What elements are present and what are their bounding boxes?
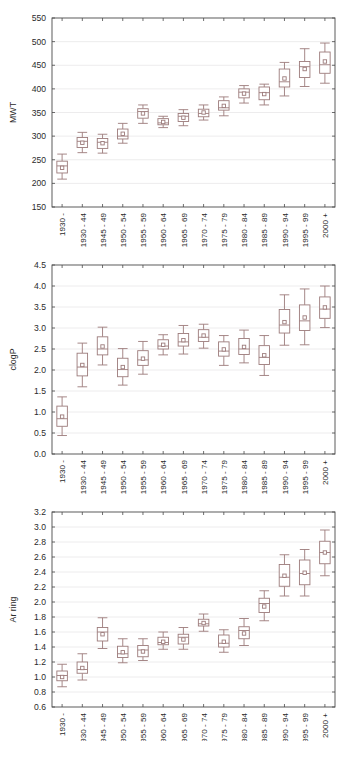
x-tick-label: 1955 - 59 [139,713,148,741]
box-plot-item [178,110,189,126]
y-tick-label: 3.2 [34,507,46,517]
y-tick-label: 2.0 [34,365,46,375]
box-plot-item [77,654,88,680]
mean-marker [202,621,205,624]
mean-marker [263,92,266,95]
box-plot-item [77,132,88,152]
y-tick-label: 1.4 [34,642,46,652]
y-axis-title: MWT [8,101,18,123]
mean-marker [81,666,84,669]
x-tick-label: 1980 - 84 [240,213,249,247]
box-plot-item [259,84,270,105]
mean-marker [283,574,286,577]
y-tick-label: 1.5 [34,386,46,396]
box-plot-item [299,550,310,597]
y-tick-label: 2.4 [34,567,46,577]
box-plot-item [97,327,108,365]
mean-marker [222,348,225,351]
box-plot-item [320,530,331,576]
x-tick-label: 1955 - 59 [139,213,148,247]
x-tick-label: 1985 - 89 [260,213,269,247]
box-plot-item [239,330,250,363]
mean-marker [101,345,104,348]
mean-marker [161,120,164,123]
mean-marker [263,354,266,357]
y-tick-label: 0.8 [34,687,46,697]
mean-marker [222,104,225,107]
y-tick-label: 2.2 [34,582,46,592]
box-plot-item [138,105,149,123]
mean-marker [323,551,326,554]
box-plot-item [279,295,290,345]
box-plot-figure: 1502002503003504004505005501930 -1930 - … [0,0,347,757]
mean-marker [101,142,104,145]
y-tick-label: 2.6 [34,552,46,562]
box-plot-item [97,618,108,649]
x-tick-label: 1980 - 84 [240,713,249,741]
mean-marker [303,67,306,70]
x-tick-label: 1965 - 69 [180,713,189,741]
x-tick-label: 1995 - 99 [301,213,310,247]
mean-marker [101,633,104,636]
x-tick-label: 1945 - 49 [99,460,108,494]
box-plot-item [198,614,209,631]
x-tick-label: 1930 - [58,460,67,483]
x-tick-label: 1970 - 74 [200,460,209,494]
mean-marker [242,345,245,348]
x-tick-label: 1965 - 69 [180,460,189,494]
x-tick-label: 1950 - 54 [119,713,128,741]
box-plot-item [320,43,331,83]
x-tick-label: 1995 - 99 [301,460,310,494]
box-plot-item [239,86,250,103]
box-plot-item [117,123,128,143]
mean-marker [202,334,205,337]
box-plot-item [219,630,230,653]
box-plot-item [97,134,108,153]
panel-mwt: 1502002503003504004505005501930 -1930 - … [0,0,347,247]
mean-marker [81,363,84,366]
x-tick-label: 1950 - 54 [119,213,128,247]
y-tick-label: 3.5 [34,302,46,312]
mean-marker [60,415,63,418]
panel-clogp: 0.00.51.01.52.02.53.03.54.04.51930 -1930… [0,247,347,494]
x-tick-label: 1930 - 44 [79,213,88,247]
box-plot-item [77,343,88,387]
mean-marker [182,338,185,341]
box-plot-item [117,349,128,386]
x-tick-label: 1990 - 94 [281,460,290,494]
x-tick-label: 1950 - 54 [119,460,128,494]
x-tick-label: 1985 - 89 [260,460,269,494]
chart-clogp: 0.00.51.01.52.02.53.03.54.04.51930 -1930… [0,247,347,494]
x-tick-label: 1970 - 74 [200,213,209,247]
mean-marker [121,132,124,135]
y-tick-label: 150 [32,202,47,212]
y-tick-label: 3.0 [34,522,46,532]
mean-marker [121,365,124,368]
y-tick-label: 200 [32,178,47,188]
box-plot-item [259,336,270,376]
y-tick-label: 450 [32,60,47,70]
y-tick-label: 2.5 [34,344,46,354]
mean-marker [141,650,144,653]
mean-marker [60,675,63,678]
box-plot-item [178,628,189,650]
mean-marker [141,357,144,360]
mean-marker [242,92,245,95]
x-tick-label: 1930 - 44 [79,713,88,741]
x-tick-label: 1975 - 79 [220,713,229,741]
box-plot-item [299,289,310,345]
x-tick-label: 1995 - 99 [301,713,310,741]
x-tick-label: 1975 - 79 [220,460,229,494]
box-plot-item [299,49,310,87]
box-plot-item [198,105,209,120]
box-plot-item [117,639,128,663]
x-tick-label: 1945 - 49 [99,713,108,741]
y-tick-label: 2.8 [34,537,46,547]
mean-marker [323,60,326,63]
mean-marker [303,316,306,319]
mean-marker [222,640,225,643]
y-axis-title: Ar ring [8,596,18,622]
x-tick-label: 2000 + [321,460,330,485]
y-tick-label: 1.0 [34,407,46,417]
x-tick-label: 1960 - 64 [159,713,168,741]
